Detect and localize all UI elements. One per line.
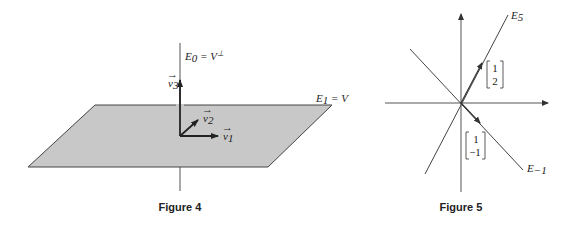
matrix-vector-1-2: 1 2 [487, 61, 503, 88]
svg-text:2: 2 [492, 75, 498, 87]
vec-arrow-v1: → [222, 121, 233, 133]
vec-arrow-v2: → [202, 103, 213, 115]
figures-canvas: E0 = V⊥ v3 → v2 → v1 → E1 = V Figure 4 E… [0, 0, 570, 225]
matrix-vector-1-minus1: 1 −1 [466, 132, 485, 159]
label-e0: E0 = V⊥ [184, 49, 224, 64]
svg-text:1: 1 [492, 62, 498, 74]
label-e1: E1 = V [315, 92, 349, 106]
svg-text:−1: −1 [469, 146, 481, 158]
eigenvector-1-minus1-arrow [461, 103, 480, 123]
figure-5: E5 E−1 1 2 1 −1 Figure 5 [385, 9, 548, 213]
figure-4: E0 = V⊥ v3 → v2 → v1 → E1 = V Figure 4 [28, 43, 349, 213]
vec-arrow-v3: → [167, 68, 178, 80]
eigenline-e5 [425, 15, 508, 174]
label-e5: E5 [510, 9, 524, 23]
caption-figure-4: Figure 4 [159, 201, 203, 213]
caption-figure-5: Figure 5 [440, 201, 483, 213]
eigenvector-1-2-arrow [461, 63, 482, 103]
label-e-minus-1: E−1 [526, 162, 547, 176]
svg-text:1: 1 [473, 133, 479, 145]
